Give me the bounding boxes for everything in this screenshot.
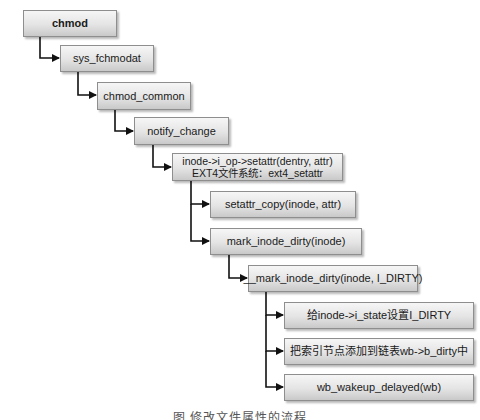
node-label-line2: EXT4文件系统：ext4_setattr [192,167,323,179]
node-chmod: chmod [23,10,117,37]
node-notify-change: notify_change [134,117,229,145]
node-set-i-state: 给inode->i_state设置I_DIRTY [284,302,474,329]
edge-sys_fchmodat-chmod_common [78,72,96,95]
edge-__mark-set_i_state [266,292,283,315]
node-label: sys_fchmodat [73,52,141,65]
node-label: chmod [52,17,88,30]
node-wb-wakeup-delayed: wb_wakeup_delayed(wb) [284,374,474,401]
node-label: __mark_inode_dirty(inode, I_DIRTY) [244,272,423,285]
node-setattr-copy: setattr_copy(inode, attr) [210,191,356,218]
edge-chmod-sys_fchmodat [40,36,59,58]
node-label: wb_wakeup_delayed(wb) [317,381,441,394]
edge-chmod_common-notify_change [115,110,133,131]
figure-caption: 图 修改文件属性的流程 [0,408,480,420]
edge-__mark-add_to_b_dirty [266,315,283,351]
edge-setattr-setattr_copy [191,181,209,204]
node-label: setattr_copy(inode, attr) [225,198,341,211]
node-label: notify_change [147,125,216,138]
node-label: 把索引节点添加到链表wb->b_dirty中 [290,345,468,358]
node-label: chmod_common [103,90,184,103]
node-__mark-inode-dirty: __mark_inode_dirty(inode, I_DIRTY) [248,265,418,292]
node-setattr: inode->i_op->setattr(dentry, attr) EXT4文… [172,153,343,181]
edge-__mark-wb_wakeup_delayed [266,351,283,387]
edge-notify_change-setattr [153,145,171,167]
edge-setattr-mark_inode_dirty [191,204,209,241]
node-label: mark_inode_dirty(inode) [227,235,346,248]
node-add-to-b-dirty: 把索引节点添加到链表wb->b_dirty中 [284,338,474,365]
node-label-line1: inode->i_op->setattr(dentry, attr) [182,155,332,167]
node-mark-inode-dirty: mark_inode_dirty(inode) [210,228,362,255]
node-chmod-common: chmod_common [97,82,191,110]
node-sys-fchmodat: sys_fchmodat [60,45,154,72]
node-label: 给inode->i_state设置I_DIRTY [307,309,451,322]
